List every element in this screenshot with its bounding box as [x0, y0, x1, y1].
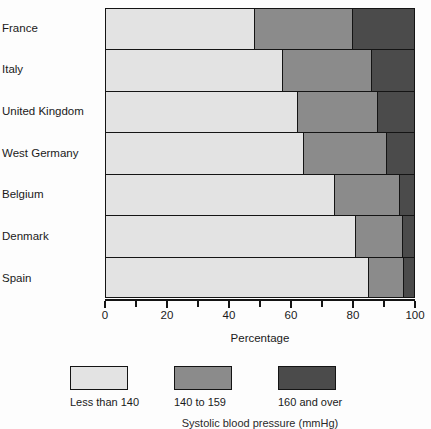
x-tick-90	[383, 301, 385, 307]
category-label-spain: Spain	[2, 272, 96, 284]
bar-segment-spain-160-and-over[interactable]	[403, 258, 414, 297]
x-tick-50	[259, 301, 261, 307]
bar-row-belgium	[105, 174, 415, 215]
x-tick-40	[228, 301, 230, 308]
legend-swatch-icon	[278, 366, 336, 390]
bar-segment-belgium-less-than-140[interactable]	[106, 175, 334, 215]
bar-segment-spain-less-than-140[interactable]	[106, 258, 368, 297]
x-tick-30	[197, 301, 199, 307]
legend: Less than 140 140 to 159 160 and over	[70, 366, 370, 412]
x-tick-80	[352, 301, 354, 308]
x-tick-60	[290, 301, 292, 308]
legend-label: Less than 140	[70, 396, 139, 408]
category-label-denmark: Denmark	[2, 230, 96, 242]
x-tick-20	[166, 301, 168, 308]
bar-segment-west-germany-less-than-140[interactable]	[106, 133, 303, 173]
bar-segment-france-less-than-140[interactable]	[106, 9, 254, 49]
bar-segment-italy-less-than-140[interactable]	[106, 50, 282, 90]
x-tick-label-0: 0	[102, 309, 108, 322]
x-tick-100	[414, 301, 416, 308]
category-label-west-germany: West Germany	[2, 147, 96, 159]
bar-row-west-germany	[105, 132, 415, 173]
legend-item-160-and-over[interactable]: 160 and over	[278, 366, 342, 408]
bar-segment-belgium-160-and-over[interactable]	[399, 175, 414, 215]
legend-swatch-icon	[70, 366, 128, 390]
bar-segment-west-germany-160-and-over[interactable]	[386, 133, 414, 173]
category-label-belgium: Belgium	[2, 188, 96, 200]
legend-item-140-to-159[interactable]: 140 to 159	[174, 366, 232, 408]
bar-segment-france-140-to-159[interactable]	[254, 9, 353, 49]
bar-row-france	[105, 8, 415, 49]
bar-segment-denmark-160-and-over[interactable]	[402, 216, 414, 256]
legend-label: 160 and over	[278, 396, 342, 408]
bar-segment-belgium-140-to-159[interactable]	[334, 175, 399, 215]
x-tick-0	[104, 301, 106, 308]
category-label-united-kingdom: United Kingdom	[2, 105, 96, 117]
bar-row-united-kingdom	[105, 91, 415, 132]
bar-segment-italy-140-to-159[interactable]	[282, 50, 371, 90]
legend-label: 140 to 159	[174, 396, 232, 408]
bar-segment-united-kingdom-140-to-159[interactable]	[297, 92, 377, 132]
bar-segment-italy-160-and-over[interactable]	[371, 50, 414, 90]
plot-area	[105, 8, 415, 298]
category-label-italy: Italy	[2, 63, 96, 75]
bar-row-italy	[105, 49, 415, 90]
chart-caption: Systolic blood pressure (mmHg)	[105, 417, 415, 429]
x-tick-label-60: 60	[285, 309, 298, 322]
bar-segment-united-kingdom-160-and-over[interactable]	[377, 92, 414, 132]
bar-segment-denmark-140-to-159[interactable]	[355, 216, 401, 256]
x-tick-label-40: 40	[223, 309, 236, 322]
bar-row-spain	[105, 257, 415, 298]
legend-swatch-icon	[174, 366, 232, 390]
x-tick-label-80: 80	[347, 309, 360, 322]
bar-segment-united-kingdom-less-than-140[interactable]	[106, 92, 297, 132]
x-tick-10	[135, 301, 137, 307]
x-tick-label-20: 20	[161, 309, 174, 322]
bar-segment-france-160-and-over[interactable]	[352, 9, 414, 49]
bar-row-denmark	[105, 215, 415, 256]
x-axis-title: Percentage	[105, 332, 415, 344]
bar-segment-west-germany-140-to-159[interactable]	[303, 133, 386, 173]
category-label-france: France	[2, 22, 96, 34]
category-axis-labels: France Italy United Kingdom West Germany…	[0, 8, 102, 298]
legend-item-less-than-140[interactable]: Less than 140	[70, 366, 139, 408]
x-tick-label-100: 100	[405, 309, 424, 322]
x-tick-70	[321, 301, 323, 307]
bar-segment-spain-140-to-159[interactable]	[368, 258, 403, 297]
bar-segment-denmark-less-than-140[interactable]	[106, 216, 355, 256]
